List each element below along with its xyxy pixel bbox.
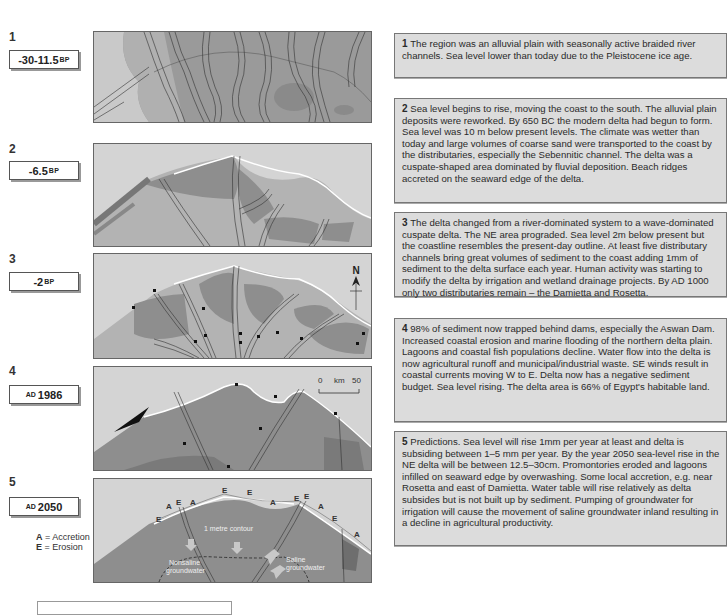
stage-1-date-value: -30-11.5 — [18, 54, 58, 66]
north-arrow-label: N — [352, 265, 359, 276]
stage-2-number: 2 — [9, 142, 16, 156]
erosion-mark: E — [156, 515, 162, 524]
erosion-mark: E — [304, 492, 310, 501]
stage-3-date-label: -2BP — [9, 272, 79, 291]
stage-4-date-prefix: AD — [26, 391, 36, 398]
stage-2-desc-number: 2 — [402, 103, 408, 114]
modern-delta-map: 0 km 50 — [94, 367, 371, 470]
stage-5-desc-number: 5 — [402, 436, 408, 447]
stage-4-date-value: 1986 — [38, 389, 62, 401]
nonsaline-label-1: Nonsaline — [169, 559, 200, 566]
stage-2-date-value: -6.5 — [29, 165, 48, 177]
stage-2-date-label: -6.5BP — [9, 161, 79, 180]
scale-unit: km — [334, 376, 345, 385]
stage-1-description: 1 The region was an alluvial plain with … — [394, 33, 727, 78]
stage-5-date-label: AD2050 — [9, 497, 79, 516]
saline-label-1: Saline — [286, 556, 306, 563]
stage-5-map: E A E A E E A E E A E A 1 metre contour … — [93, 478, 372, 583]
nonsaline-label-2: groundwater — [166, 567, 206, 575]
map-legend: A = Accretion E = Erosion — [36, 532, 90, 552]
stage-5-date-value: 2050 — [38, 501, 62, 513]
stage-4-number: 4 — [9, 364, 16, 378]
erosion-mark: E — [176, 498, 182, 507]
stage-3-date-suffix: BP — [44, 278, 54, 285]
stage-3-description: 3 The delta changed from a river-dominat… — [394, 212, 727, 297]
stage-2-description: 2 Sea level begins to rise, moving the c… — [394, 98, 727, 203]
accretion-mark: A — [354, 530, 360, 539]
stage-4-desc-text: 98% of sediment now trapped behind dams,… — [402, 323, 715, 392]
stage-3-desc-number: 3 — [402, 217, 408, 228]
accretion-mark: A — [166, 502, 172, 511]
stage-4-desc-number: 4 — [402, 323, 408, 334]
stage-1-date-label: -30-11.5BP — [9, 50, 79, 69]
erosion-mark: E — [222, 486, 228, 495]
stage-5-number: 5 — [9, 475, 16, 489]
stage-3-number: 3 — [9, 252, 16, 266]
contour-label: 1 metre contour — [204, 525, 254, 532]
saline-label-2: groundwater — [286, 564, 326, 572]
stage-2-desc-text: Sea level begins to rise, moving the coa… — [402, 103, 717, 184]
stage-1-date-suffix: BP — [60, 56, 70, 63]
stage-5-date-prefix: AD — [26, 503, 36, 510]
erosion-mark: E — [332, 514, 338, 523]
erosion-mark: E — [247, 488, 253, 497]
stage-1-desc-number: 1 — [402, 38, 408, 49]
stage-4-description: 4 98% of sediment now trapped behind dam… — [394, 318, 727, 422]
accretion-mark: A — [190, 498, 196, 507]
stage-1-desc-text: The region was an alluvial plain with se… — [402, 38, 696, 61]
scale-start: 0 — [318, 376, 323, 385]
braided-river-map — [94, 32, 371, 122]
legend-accretion: A = Accretion — [36, 532, 90, 542]
stage-4-date-label: AD1986 — [9, 385, 79, 404]
scale-end: 50 — [352, 376, 361, 385]
future-delta-map: E A E A E E A E E A E A 1 metre contour … — [94, 479, 371, 582]
caption-box — [37, 601, 232, 615]
early-delta-map — [94, 144, 371, 246]
erosion-mark: E — [294, 494, 300, 503]
stage-3-desc-text: The delta changed from a river-dominated… — [402, 217, 714, 298]
stage-2-date-suffix: BP — [49, 167, 59, 174]
stage-5-desc-text: Predictions. Sea level will rise 1mm per… — [402, 436, 719, 528]
accretion-mark: A — [270, 498, 276, 507]
stage-1-number: 1 — [9, 30, 16, 44]
stage-5-description: 5 Predictions. Sea level will rise 1mm p… — [394, 431, 727, 546]
legend-erosion: E = Erosion — [36, 542, 90, 552]
accretion-mark: A — [318, 502, 324, 511]
stage-3-map: N — [93, 253, 372, 359]
stage-3-date-value: -2 — [33, 276, 43, 288]
stage-1-map — [93, 31, 372, 123]
stage-4-map: 0 km 50 — [93, 366, 372, 471]
stage-2-map — [93, 143, 372, 247]
wave-dominated-delta-map: N — [94, 254, 371, 358]
